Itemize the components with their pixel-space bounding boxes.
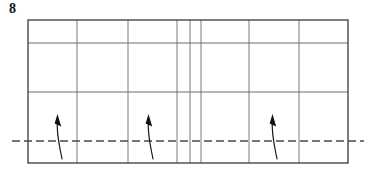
callout-arrow-right-head bbox=[270, 114, 277, 127]
callout-arrow-right bbox=[270, 114, 277, 159]
horizontal-grid-group bbox=[28, 43, 348, 92]
callout-arrow-right-shaft bbox=[272, 120, 277, 159]
callout-arrow-left-shaft bbox=[57, 120, 62, 159]
callout-arrow-group bbox=[55, 114, 277, 159]
figure-container: 8 bbox=[0, 0, 373, 175]
callout-arrow-center-head bbox=[146, 114, 153, 127]
callout-arrow-center-shaft bbox=[148, 120, 153, 159]
callout-arrow-left bbox=[55, 114, 62, 159]
diagram-drawing-surface bbox=[0, 0, 373, 175]
callout-arrow-left-head bbox=[55, 114, 62, 127]
callout-arrow-center bbox=[146, 114, 153, 159]
